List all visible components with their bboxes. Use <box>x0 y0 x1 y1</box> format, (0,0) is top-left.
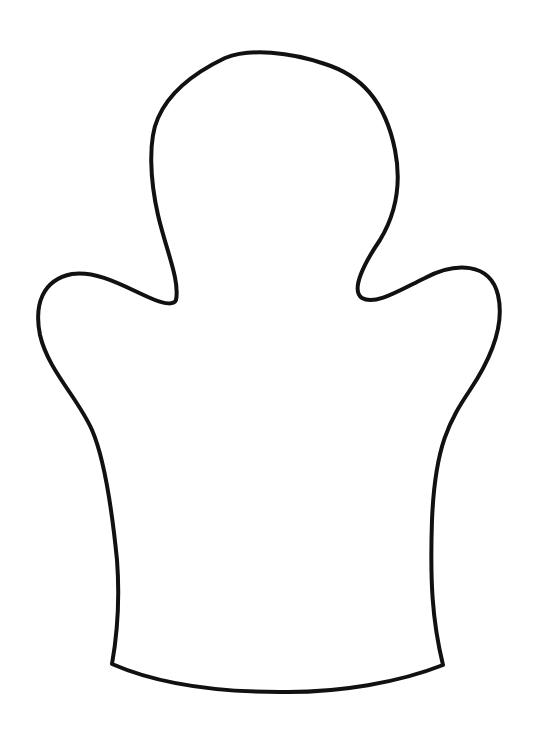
puppet-outline-icon <box>38 52 500 692</box>
puppet-outline-drawing <box>0 0 533 748</box>
puppet-template-canvas: hand puppet outline template <box>0 0 533 748</box>
